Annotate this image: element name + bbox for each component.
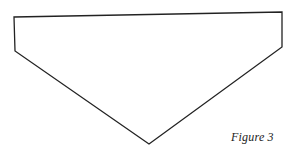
pentagon-outline — [14, 12, 282, 144]
figure-canvas: Figure 3 — [0, 0, 293, 152]
figure-caption: Figure 3 — [231, 130, 274, 145]
